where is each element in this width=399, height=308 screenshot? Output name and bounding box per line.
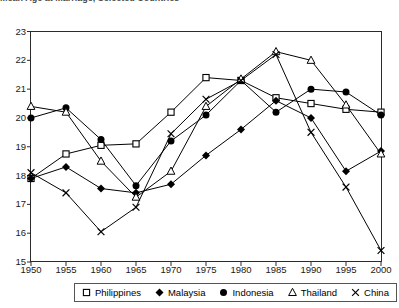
chart-page: Mean Age at Marriage, Selected Countries…: [0, 0, 399, 308]
series-line: [31, 78, 381, 179]
cross-x-icon: [351, 288, 360, 297]
x-axis-tick-label: 2000: [361, 264, 399, 275]
data-point-open-triangle: [288, 288, 296, 295]
series-line: [31, 80, 381, 185]
data-point-open-square: [168, 109, 174, 115]
x-axis-tick-label: 1995: [326, 264, 366, 275]
x-axis-tick-label: 1975: [186, 264, 226, 275]
x-axis-tick-label: 1980: [221, 264, 261, 275]
data-point-open-triangle: [27, 102, 35, 109]
x-axis-tick-label: 1955: [46, 264, 86, 275]
x-axis: 1950195519601965197019751980198519901995…: [0, 264, 399, 280]
data-point-open-square: [308, 100, 314, 106]
data-point-filled-circle: [308, 86, 315, 93]
filled-diamond-icon: [155, 288, 164, 297]
legend-item-philippines[interactable]: Philippines: [82, 287, 141, 298]
y-axis: 232221201918171615: [0, 0, 26, 308]
data-point-open-square: [203, 75, 209, 81]
data-point-cross-x: [308, 129, 315, 136]
data-point-cross-x: [133, 204, 140, 211]
x-axis-tick-label: 1985: [256, 264, 296, 275]
legend-item-malaysia[interactable]: Malaysia: [155, 287, 206, 298]
data-point-filled-circle: [273, 109, 280, 116]
data-point-cross-x: [343, 184, 350, 191]
y-axis-tick-label: 23: [4, 27, 26, 37]
data-point-filled-circle: [203, 112, 210, 119]
data-point-cross-x: [352, 289, 359, 296]
data-point-filled-diamond: [307, 114, 315, 122]
data-point-filled-circle: [28, 114, 35, 121]
data-point-filled-diamond: [62, 163, 70, 171]
data-point-filled-diamond: [97, 185, 105, 193]
data-point-filled-circle: [133, 182, 140, 189]
x-axis-tick-label: 1950: [11, 264, 51, 275]
data-point-cross-x: [63, 189, 70, 196]
x-axis-tick-label: 1960: [81, 264, 121, 275]
x-axis-tick-label: 1990: [291, 264, 331, 275]
series-thailand: [27, 47, 385, 200]
legend-label: Indonesia: [232, 287, 273, 298]
y-axis-tick-label: 19: [4, 142, 26, 152]
data-point-cross-x: [378, 247, 385, 254]
legend-label: Thailand: [301, 287, 337, 298]
data-point-open-square: [83, 289, 89, 295]
data-point-open-square: [133, 141, 139, 147]
y-axis-tick-label: 18: [4, 171, 26, 181]
data-point-filled-circle: [220, 289, 227, 296]
data-point-open-triangle: [202, 102, 210, 109]
x-axis-tick-label: 1970: [151, 264, 191, 275]
data-point-open-square: [63, 151, 69, 157]
y-axis-tick-label: 21: [4, 84, 26, 94]
legend-label: China: [364, 287, 389, 298]
chart-canvas: [0, 0, 399, 308]
data-point-filled-diamond: [155, 289, 163, 297]
y-axis-tick-label: 17: [4, 199, 26, 209]
legend-item-indonesia[interactable]: Indonesia: [219, 287, 273, 298]
y-axis-tick-label: 20: [4, 113, 26, 123]
legend-item-thailand[interactable]: Thailand: [288, 287, 337, 298]
data-point-cross-x: [168, 130, 175, 137]
open-triangle-icon: [288, 288, 297, 297]
x-axis-tick-label: 1965: [116, 264, 156, 275]
data-point-filled-diamond: [342, 167, 350, 175]
open-square-icon: [82, 288, 91, 297]
data-point-filled-circle: [98, 136, 105, 143]
legend-item-china[interactable]: China: [351, 287, 389, 298]
legend-label: Philippines: [95, 287, 141, 298]
chart-legend: PhilippinesMalaysiaIndonesiaThailandChin…: [74, 283, 397, 302]
y-axis-tick-label: 16: [4, 228, 26, 238]
filled-circle-icon: [219, 288, 228, 297]
series-line: [31, 52, 381, 198]
data-point-filled-circle: [343, 89, 350, 96]
legend-label: Malaysia: [168, 287, 206, 298]
data-point-cross-x: [98, 228, 105, 235]
data-point-filled-circle: [378, 112, 385, 119]
y-axis-tick-label: 22: [4, 55, 26, 65]
data-point-open-triangle: [167, 167, 175, 174]
